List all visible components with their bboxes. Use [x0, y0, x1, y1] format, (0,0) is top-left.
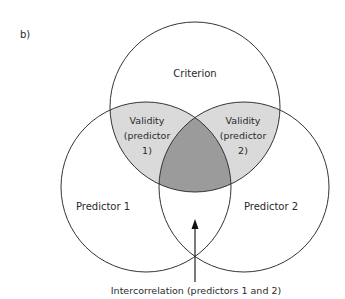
validity2-line2: (predictor — [220, 130, 267, 141]
arrow-up-icon — [192, 219, 199, 282]
predictor2-label: Predictor 2 — [244, 201, 298, 212]
intercorrelation-annotation: Intercorrelation (predictors 1 and 2) — [111, 285, 281, 296]
validity2-line1: Validity — [226, 115, 261, 126]
panel-label: b) — [20, 29, 30, 40]
criterion-label: Criterion — [173, 68, 216, 79]
predictor1-label: Predictor 1 — [76, 201, 130, 212]
venn-diagram: b) Criterion Validity (predictor 1) Vali… — [0, 0, 345, 299]
validity1-line1: Validity — [130, 115, 165, 126]
validity1-line3: 1) — [142, 145, 152, 156]
validity1-line2: (predictor — [124, 130, 171, 141]
validity2-line3: 2) — [238, 145, 248, 156]
